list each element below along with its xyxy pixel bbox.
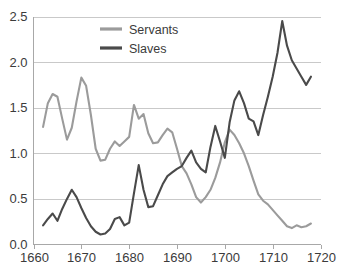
x-tick-label-1690: 1690 [163,250,192,265]
legend-label-slaves: Slaves [129,42,167,56]
x-tick-label-1660: 1660 [20,250,49,265]
x-tick-label-1710: 1710 [259,250,288,265]
y-tick-label-1.0: 1.0 [9,146,27,161]
y-tick-label-1.5: 1.5 [9,100,27,115]
x-tick-label-1700: 1700 [211,250,240,265]
x-tick-label-1680: 1680 [115,250,144,265]
x-tick-label-1670: 1670 [67,250,96,265]
x-tick-label-1720: 1720 [307,250,336,265]
legend-label-servants: Servants [129,23,178,37]
chart-background [0,0,343,279]
y-tick-label-2.5: 2.5 [9,9,27,24]
y-tick-label-2.0: 2.0 [9,55,27,70]
line-chart: 0.00.51.01.52.02.5 166016701680169017001… [0,0,343,279]
chart-canvas: 0.00.51.01.52.02.5 166016701680169017001… [0,0,343,279]
y-tick-label-0.5: 0.5 [9,191,27,206]
